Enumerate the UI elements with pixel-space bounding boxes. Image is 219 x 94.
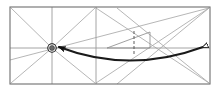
origin-node-inner-dot [50, 46, 55, 51]
diagram-root [0, 0, 219, 94]
origin-node-marker [48, 44, 56, 52]
diagram-plot-background [10, 7, 210, 84]
diagram-canvas [0, 0, 219, 94]
